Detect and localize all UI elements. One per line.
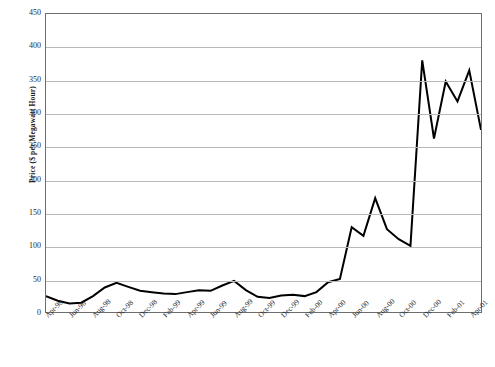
y-tick-label: 150 (15, 209, 41, 217)
gridline (46, 281, 481, 282)
y-tick-label: 300 (15, 109, 41, 117)
y-tick-label: 100 (15, 242, 41, 250)
y-tick-label: 200 (15, 176, 41, 184)
x-axis-ticks: Apr-98Jun-98Aug-98Oct-98Dec-98Feb-99Apr-… (0, 313, 495, 367)
gridline (46, 47, 481, 48)
line-chart: Price ($ per Megawatt Hour) 450400350300… (0, 0, 495, 367)
gridline (46, 147, 481, 148)
y-tick-label: 450 (15, 9, 41, 17)
gridline (46, 214, 481, 215)
price-series-line (46, 14, 481, 312)
gridline (46, 181, 481, 182)
y-axis-ticks: 450400350300250200150100500 (10, 0, 41, 367)
y-tick-label: 250 (15, 142, 41, 150)
y-tick-label: 400 (15, 42, 41, 50)
plot-area (45, 13, 482, 313)
gridline (46, 114, 481, 115)
y-tick-label: 350 (15, 76, 41, 84)
y-tick-label: 50 (15, 276, 41, 284)
gridline (46, 247, 481, 248)
gridline (46, 81, 481, 82)
